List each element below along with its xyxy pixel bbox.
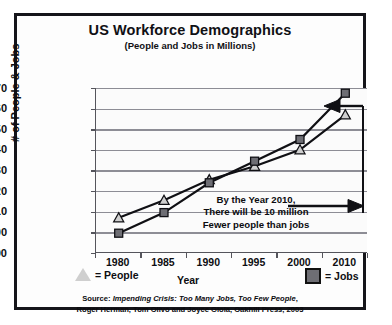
y-tick-label: 100 bbox=[0, 226, 7, 238]
source-comma: , bbox=[296, 294, 298, 303]
y-tick-label: 160 bbox=[0, 102, 7, 114]
chart-title: US Workforce Demographics bbox=[17, 22, 363, 38]
source-prefix: Source: bbox=[82, 294, 110, 303]
y-tick-label: 150 bbox=[0, 123, 7, 135]
y-tick-label: 140 bbox=[0, 143, 7, 155]
legend-label-jobs: = Jobs bbox=[325, 270, 359, 282]
source-citation: Source: Impending Crisis: Too Many Jobs,… bbox=[17, 293, 363, 315]
annotation-line-2: There will be 10 million bbox=[189, 206, 323, 218]
triangle-marker-icon bbox=[75, 268, 91, 281]
y-tick-label: 120 bbox=[0, 185, 7, 197]
x-tick-label: 1985 bbox=[137, 256, 189, 268]
y-tick-label: 130 bbox=[0, 164, 7, 176]
x-tick-label: 1995 bbox=[228, 256, 280, 268]
x-tick-label: 2000 bbox=[273, 256, 325, 268]
y-tick-label: 90 bbox=[0, 247, 7, 259]
y-tick-label: 170 bbox=[0, 82, 7, 94]
legend-item-jobs: = Jobs bbox=[305, 268, 359, 284]
annotation-line-3: Fewer people than jobs bbox=[189, 219, 323, 231]
legend-label-people: = People bbox=[95, 269, 138, 281]
y-axis-title: # of People & Jobs bbox=[9, 44, 21, 142]
chart-annotation: By the Year 2010, There will be 10 milli… bbox=[189, 194, 323, 231]
square-marker-icon bbox=[305, 268, 321, 284]
chart-frame: US Workforce Demographics (People and Jo… bbox=[14, 13, 366, 310]
x-tick-label: 2010 bbox=[318, 256, 370, 268]
x-tick-label: 1990 bbox=[182, 256, 234, 268]
chart-subtitle: (People and Jobs in Millions) bbox=[17, 40, 363, 51]
y-tick-label: 110 bbox=[0, 205, 7, 217]
annotation-line-1: By the Year 2010, bbox=[189, 194, 323, 206]
legend-item-people: = People bbox=[75, 268, 138, 281]
title-block: US Workforce Demographics (People and Jo… bbox=[17, 22, 363, 51]
source-work-title: Impending Crisis: Too Many Jobs, Too Few… bbox=[113, 294, 296, 303]
x-axis-title: Year bbox=[177, 274, 199, 286]
source-authors: Roger Herman, Tom Olivo and Joyce Gioia,… bbox=[77, 305, 304, 314]
x-tick-label: 1980 bbox=[92, 256, 144, 268]
